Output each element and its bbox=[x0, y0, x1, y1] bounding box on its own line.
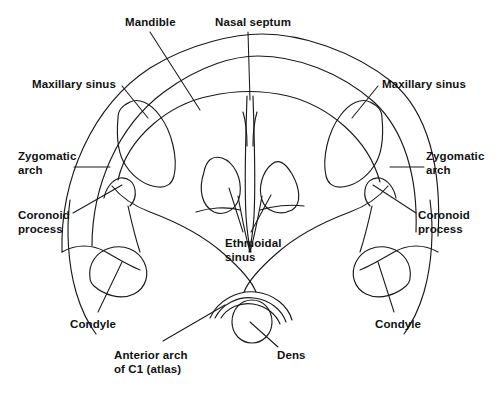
label-condyle-right: Condyle bbox=[375, 318, 421, 332]
right-sinus-pocket bbox=[325, 101, 383, 188]
right-inner-ramus bbox=[360, 206, 372, 252]
septum-line-1 bbox=[245, 96, 251, 252]
leader-coronoid-process-left bbox=[73, 185, 122, 213]
leader-mandible bbox=[150, 32, 200, 110]
septum-line-2 bbox=[249, 96, 255, 252]
label-ethmoidal-sinus: Ethmoidal sinus bbox=[225, 237, 282, 264]
nasal-floor-right bbox=[260, 205, 304, 210]
leader-condyle-left bbox=[98, 262, 122, 312]
c1-arch-mid bbox=[215, 298, 286, 322]
left-condyle bbox=[90, 247, 147, 297]
leader-condyle-right bbox=[378, 262, 394, 312]
label-mandible: Mandible bbox=[125, 16, 176, 30]
right-condyle bbox=[353, 247, 410, 297]
leader-anterior-arch-c1 bbox=[163, 305, 225, 341]
label-zygomatic-arch-left: Zygomatic arch bbox=[18, 150, 76, 177]
label-coronoid-process-right: Coronoid process bbox=[418, 209, 470, 236]
label-dens: Dens bbox=[277, 349, 306, 363]
label-nasal-septum: Nasal septum bbox=[215, 16, 291, 30]
anatomy-diagram: MandibleNasal septumMaxillary sinusMaxil… bbox=[0, 0, 498, 394]
left-inner-ramus bbox=[128, 206, 140, 252]
leader-coronoid-process-right bbox=[373, 185, 416, 213]
label-zygomatic-arch-right: Zygomatic arch bbox=[426, 150, 484, 177]
skullbase-left bbox=[62, 246, 140, 270]
leader-nasal-septum bbox=[248, 32, 250, 100]
skullbase-right bbox=[360, 246, 438, 270]
label-anterior-arch-c1: Anterior arch of C1 (atlas) bbox=[114, 349, 188, 376]
nasal-floor-left bbox=[196, 208, 240, 212]
maxilla-arch bbox=[118, 92, 380, 183]
label-condyle-left: Condyle bbox=[70, 318, 116, 332]
label-maxillary-sinus-left: Maxillary sinus bbox=[32, 78, 116, 92]
left-lateral-wall bbox=[68, 200, 96, 334]
skull-cross-section-svg bbox=[0, 0, 498, 394]
label-maxillary-sinus-right: Maxillary sinus bbox=[382, 78, 466, 92]
label-coronoid-process-left: Coronoid process bbox=[18, 209, 70, 236]
